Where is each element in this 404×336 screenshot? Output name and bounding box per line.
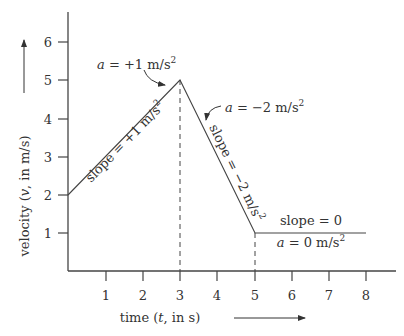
y-tick-labels: 1 2 3 4 5 6 <box>44 35 52 241</box>
x-tick-label: 3 <box>176 288 184 303</box>
arrow-to-segment-2 <box>206 106 221 120</box>
accel-label-2: a = −2 m/s2 <box>225 98 304 115</box>
x-tick-labels: 1 2 3 4 5 6 7 8 <box>102 288 370 303</box>
x-ticks <box>106 271 366 281</box>
slope-label-segment-2: slope = −2 m/s2 <box>206 121 268 224</box>
accel-label-1: a = +1 m/s2 <box>97 55 176 72</box>
x-axis-label: time (t, in s) <box>120 310 201 325</box>
x-tick-label: 6 <box>288 288 296 303</box>
slope-label-segment-1: slope = +1 m/s2 <box>81 97 167 185</box>
y-tick-label: 3 <box>44 150 52 165</box>
y-tick-label: 5 <box>44 73 52 88</box>
y-axis-label: velocity (v, in m/s) <box>17 136 32 258</box>
accel-label-3: a = 0 m/s2 <box>277 233 345 250</box>
x-tick-label: 7 <box>325 288 333 303</box>
slope-label-segment-3: slope = 0 <box>280 213 342 228</box>
x-tick-label: 4 <box>213 288 221 303</box>
y-tick-label: 2 <box>44 188 52 203</box>
y-tick-label: 1 <box>44 226 52 241</box>
velocity-time-chart: 1 2 3 4 5 6 1 2 3 4 5 6 7 8 slope = +1 m… <box>0 0 404 336</box>
y-tick-label: 4 <box>44 112 52 127</box>
y-tick-label: 6 <box>44 35 52 50</box>
arrow-to-peak <box>144 70 165 85</box>
x-tick-label: 1 <box>102 288 110 303</box>
y-ticks <box>58 42 68 233</box>
x-tick-label: 8 <box>362 288 370 303</box>
x-tick-label: 2 <box>139 288 147 303</box>
x-tick-label: 5 <box>251 288 259 303</box>
